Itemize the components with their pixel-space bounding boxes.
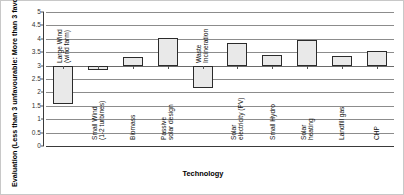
bar xyxy=(262,55,282,65)
bar-category-label: Passivesolar design xyxy=(160,104,175,140)
bar-category-label-line: Biomass xyxy=(129,115,136,140)
bar-category-label: Solarheating xyxy=(300,118,315,140)
bar-category-label: Landfill gas xyxy=(338,107,345,140)
gridline xyxy=(46,92,394,93)
x-axis-tick-mark xyxy=(377,66,378,69)
bar-category-label: WasteIncineration xyxy=(195,29,210,63)
gridline xyxy=(46,146,394,147)
bar-category-label-line: Large Wind xyxy=(56,29,63,63)
bar xyxy=(332,56,352,66)
gridline xyxy=(46,12,394,13)
y-axis-tick-label: 0.5 xyxy=(32,129,41,136)
gridline xyxy=(46,79,394,80)
y-axis-tick-label: 4.5 xyxy=(32,22,41,29)
x-axis-tick-mark xyxy=(168,66,169,69)
gridline xyxy=(46,52,394,53)
x-axis-tick-mark xyxy=(237,66,238,69)
bar-category-label-line: Small Wind xyxy=(91,101,98,140)
bar-category-label-line: electricity (PV) xyxy=(237,98,244,141)
bar-category-label-line: solar design xyxy=(168,104,175,140)
y-axis-tick-label: 1.5 xyxy=(32,103,41,110)
plot-area: Large Wind(wind farm)Small Wind(1-2 turb… xyxy=(46,12,394,146)
y-axis-title: Evaluation (Less than 3 unfavourable: Mo… xyxy=(1,1,27,159)
x-axis-title: Technology xyxy=(1,169,404,178)
bar-category-label-line: Incineration xyxy=(203,29,210,63)
x-axis-tick-mark xyxy=(307,66,308,69)
bar xyxy=(123,57,143,66)
bar xyxy=(367,51,387,66)
bar xyxy=(193,66,213,88)
bar xyxy=(227,43,247,66)
bar xyxy=(158,38,178,65)
gridline xyxy=(46,39,394,40)
x-axis-tick-mark xyxy=(272,66,273,69)
y-axis-line xyxy=(43,12,44,146)
bar-category-label-line: Landfill gas xyxy=(338,107,345,140)
x-axis-tick-mark xyxy=(133,66,134,69)
bar-category-label-line: heating xyxy=(307,118,314,140)
bar-category-label: Small Wind(1-2 turbines) xyxy=(91,101,106,140)
x-axis-tick-mark xyxy=(342,66,343,69)
bar-category-label: Solarelectricity (PV) xyxy=(230,98,245,141)
bar-category-label-line: (1-2 turbines) xyxy=(98,101,105,140)
y-axis-tick-label: 2.5 xyxy=(32,76,41,83)
bar-category-label-line: CHP xyxy=(373,126,380,140)
bar xyxy=(297,40,317,66)
y-axis-tick-labels: 54.543.532.521.510.50 xyxy=(25,12,43,146)
bar-category-label: Small Hydro xyxy=(269,104,276,140)
x-axis-tick-mark xyxy=(98,66,99,69)
bar-category-label: CHP xyxy=(373,126,380,140)
bar-category-label: Biomass xyxy=(129,115,136,140)
bar-category-label: Large Wind(wind farm) xyxy=(56,29,71,63)
chart-figure: Evaluation (Less than 3 unfavourable: Mo… xyxy=(0,0,404,195)
bar-category-label-line: Small Hydro xyxy=(269,104,276,140)
bar xyxy=(53,66,73,105)
y-axis-tick-label: 3.5 xyxy=(32,49,41,56)
bar-category-label-line: Solar xyxy=(300,118,307,140)
y-axis-title-text: Evaluation (Less than 3 unfavourable: Mo… xyxy=(10,0,19,186)
bar-category-label-line: (wind farm) xyxy=(63,29,70,63)
bar-category-label-line: Solar xyxy=(230,98,237,141)
x-axis-tick-mark xyxy=(203,66,204,69)
x-axis-tick-mark xyxy=(63,66,64,69)
gridline xyxy=(46,25,394,26)
